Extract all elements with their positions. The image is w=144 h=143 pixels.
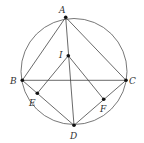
- segment-if: [68, 56, 103, 100]
- label-b: B: [9, 76, 17, 86]
- label-e: E: [28, 98, 36, 108]
- segment-ie: [37, 56, 68, 94]
- label-f: F: [99, 104, 107, 114]
- label-i: I: [58, 50, 63, 60]
- points-group: [21, 15, 128, 127]
- point-c: [124, 79, 128, 83]
- labels-group: AIBCEFD: [9, 5, 136, 141]
- segment-cd: [74, 80, 126, 125]
- point-i: [67, 54, 71, 58]
- segment-ad: [66, 17, 74, 125]
- label-c: C: [129, 76, 136, 86]
- label-a: A: [58, 5, 66, 15]
- point-e: [36, 92, 40, 96]
- point-b: [21, 79, 25, 83]
- point-a: [64, 15, 68, 19]
- point-f: [102, 98, 106, 102]
- label-d: D: [69, 131, 77, 141]
- segment-ab: [22, 17, 65, 80]
- circumcircle: [21, 19, 127, 125]
- segment-ac: [66, 17, 126, 80]
- point-d: [72, 124, 76, 128]
- geometry-diagram: AIBCEFD: [0, 0, 144, 143]
